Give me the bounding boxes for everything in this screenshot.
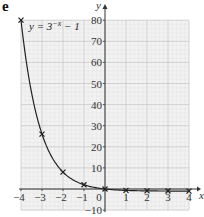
y-axis-label: y <box>95 0 101 11</box>
y-tick-label: 40 <box>91 99 103 111</box>
y-tick-label: 20 <box>91 141 103 153</box>
y-axis-arrow-icon <box>103 4 108 9</box>
y-tick-label: 10 <box>91 162 103 174</box>
y-tick-label: 80 <box>91 14 103 26</box>
x-tick-label: −2 <box>55 191 67 203</box>
function-graph: xy −4−3−2−101234−101020304050607080 y = … <box>0 0 204 217</box>
y-tick-label: 50 <box>91 78 103 90</box>
x-tick-label: −4 <box>13 191 25 203</box>
x-axis-label: x <box>198 189 204 201</box>
y-tick-label: 70 <box>91 35 103 47</box>
y-tick-label: 60 <box>91 56 103 68</box>
x-tick-label: −1 <box>76 191 88 203</box>
y-tick-label: 30 <box>91 120 103 132</box>
x-tick-label: −3 <box>34 191 46 203</box>
y-tick-label: −10 <box>85 204 103 216</box>
x-tick-label: 0 <box>96 191 102 203</box>
